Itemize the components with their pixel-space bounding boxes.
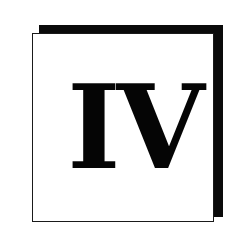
roman-numeral-label: IV [67,62,190,192]
